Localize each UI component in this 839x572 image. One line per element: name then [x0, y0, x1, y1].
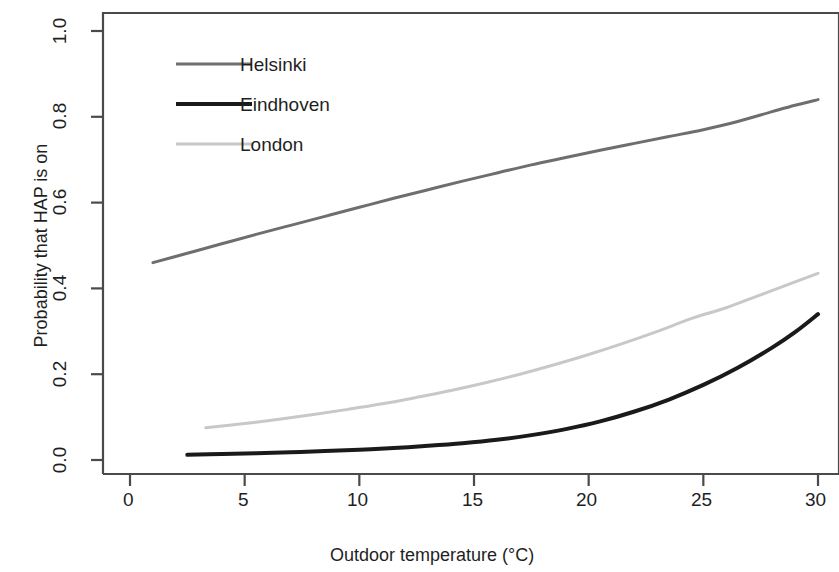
ytick-label-2: 0.4 — [49, 268, 71, 308]
xtick-label-0: 0 — [123, 489, 134, 511]
xtick-label-3: 15 — [462, 489, 483, 511]
legend-label-eindhoven: Eindhoven — [240, 94, 330, 116]
ytick-label-3: 0.6 — [49, 182, 71, 222]
chart-figure: 0 5 10 15 20 25 30 0.0 0.2 0.4 0.6 0.8 1… — [0, 0, 839, 572]
ytick-label-5: 1.0 — [49, 11, 71, 51]
ytick-label-1: 0.2 — [49, 354, 71, 394]
axis-ticks — [91, 31, 818, 486]
ytick-label-4: 0.8 — [49, 96, 71, 136]
plot-canvas — [0, 0, 839, 572]
legend-label-helsinki: Helsinki — [240, 54, 307, 76]
xtick-label-1: 5 — [238, 489, 249, 511]
xtick-label-5: 25 — [691, 489, 712, 511]
plot-frame — [103, 13, 839, 474]
legend-label-london: London — [240, 134, 303, 156]
series-line-helsinki — [153, 100, 818, 263]
xtick-label-4: 20 — [576, 489, 597, 511]
x-axis-title: Outdoor temperature (°C) — [330, 545, 534, 566]
series-line-london — [206, 273, 818, 427]
series-line-eindhoven — [187, 314, 818, 455]
xtick-label-6: 30 — [805, 489, 826, 511]
y-axis-title: Probability that HAP is on — [31, 121, 52, 371]
xtick-label-2: 10 — [347, 489, 368, 511]
ytick-label-0: 0.0 — [49, 440, 71, 480]
